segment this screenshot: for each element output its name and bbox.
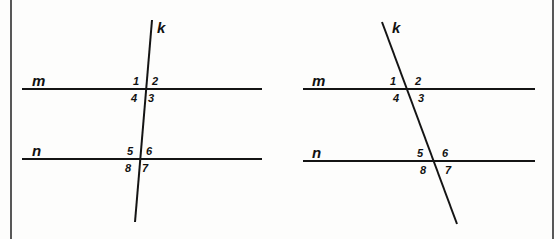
figure-left-angle-1: 1 xyxy=(133,76,139,87)
geometry-svg-canvas xyxy=(0,0,560,239)
figure-left-transversal-k xyxy=(135,20,152,222)
figure-left-angle-4: 4 xyxy=(131,93,137,104)
figure-left-angle-5: 5 xyxy=(127,146,133,157)
figure-left-angle-6: 6 xyxy=(146,146,152,157)
figure-right-angle-1: 1 xyxy=(390,76,396,87)
figure-left-angle-2: 2 xyxy=(152,76,158,87)
figure-right-angle-7: 7 xyxy=(445,165,451,176)
figure-left-angle-8: 8 xyxy=(125,163,131,174)
figure-left-label-m: m xyxy=(32,73,45,88)
figure-left-label-k: k xyxy=(157,20,165,35)
figure-right-label-m: m xyxy=(312,73,325,88)
figure-right-angle-5: 5 xyxy=(417,148,423,159)
figure-left-angle-3: 3 xyxy=(148,93,154,104)
page-borders xyxy=(11,0,553,239)
figure-right-angle-2: 2 xyxy=(415,76,421,87)
figure-right-angle-6: 6 xyxy=(442,148,448,159)
figure-right-angle-4: 4 xyxy=(393,93,399,104)
figure-left-group xyxy=(22,20,262,222)
figure-right-group xyxy=(303,22,535,224)
figure-right-transversal-k xyxy=(382,22,457,224)
figure-right-angle-3: 3 xyxy=(418,93,424,104)
geometry-figure-root: mnk12435687mnk12435687 xyxy=(0,0,560,239)
figure-left-angle-7: 7 xyxy=(142,163,148,174)
figure-right-label-k: k xyxy=(392,20,400,35)
figure-right-label-n: n xyxy=(312,145,321,160)
figure-left-label-n: n xyxy=(32,143,41,158)
figure-right-angle-8: 8 xyxy=(420,165,426,176)
